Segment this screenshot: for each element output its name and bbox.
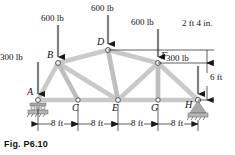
load-label-B: 600 lb <box>41 13 64 23</box>
dim-label-bay4: 8 ft <box>171 118 183 128</box>
roller-support-icon <box>27 103 48 117</box>
joint-label-E: E <box>112 102 118 113</box>
dim-label-bay3: 8 ft <box>131 118 143 128</box>
member-EF <box>118 63 158 100</box>
figure-container: A B C D E F G H 300 lb 600 lb 600 lb 600… <box>0 0 235 155</box>
load-label-H: 300 lb <box>166 53 189 63</box>
dim-label-bay1: 8 ft <box>51 118 63 128</box>
joint-label-G: G <box>151 102 158 113</box>
joint-label-B: B <box>47 49 53 60</box>
joint-label-A: A <box>27 86 33 97</box>
dim-label-6ft: 6 ft <box>210 72 222 82</box>
joint-label-C: C <box>72 102 79 113</box>
member-FH <box>158 63 198 100</box>
joint-label-H: H <box>185 99 192 110</box>
load-label-A: 300 lb <box>0 52 23 62</box>
dim-label-2ft4in: 2 ft 4 in. <box>182 18 213 28</box>
load-label-D: 600 lb <box>91 3 114 13</box>
member-BD <box>58 50 108 63</box>
load-label-F: 600 lb <box>131 17 154 27</box>
member-AB <box>38 63 58 100</box>
dim-label-bay2: 8 ft <box>91 118 103 128</box>
joint-A <box>36 98 41 103</box>
figure-caption: Fig. P6.10 <box>4 139 48 149</box>
joint-label-D: D <box>97 36 104 47</box>
member-DF <box>108 50 158 63</box>
joint-B <box>56 61 61 66</box>
